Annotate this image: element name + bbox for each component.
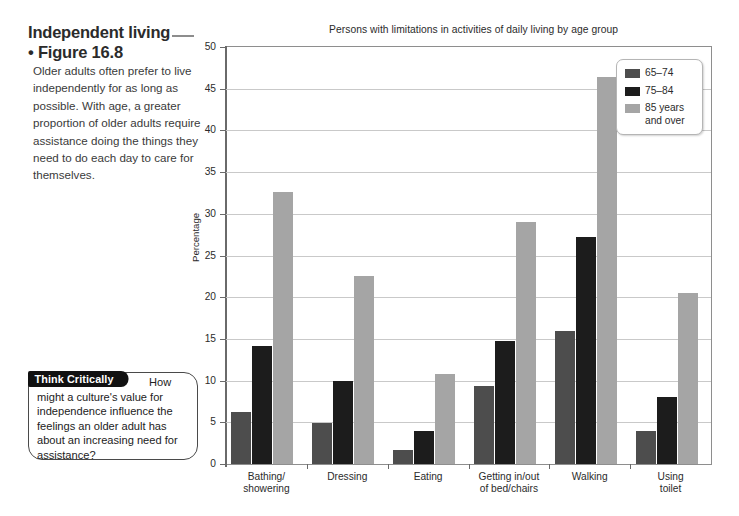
x-axis-category-label: Dressing xyxy=(307,471,388,483)
y-tick-label: 10 xyxy=(194,376,216,386)
plot-area: Percentage 05101520253035404550 Bathing/… xyxy=(225,46,712,465)
x-axis-category-label: Using toilet xyxy=(630,471,711,496)
bar xyxy=(231,412,251,464)
legend-item[interactable]: 75–84 xyxy=(625,85,695,98)
x-axis-tick xyxy=(388,464,389,469)
x-axis-category-label: Walking xyxy=(549,471,630,483)
x-axis-category-label: Bathing/ showering xyxy=(226,471,307,496)
figure-heading-line1: Independent living xyxy=(28,23,170,41)
bar xyxy=(576,237,596,464)
bar xyxy=(273,192,293,464)
bar xyxy=(555,331,575,464)
figure-caption: Older adults often prefer to live indepe… xyxy=(33,62,201,184)
figure-sidebar: Independent living • Figure 16.8 Older a… xyxy=(0,0,208,516)
legend-swatch-icon xyxy=(625,69,640,78)
bar xyxy=(312,423,332,464)
legend-item[interactable]: 65–74 xyxy=(625,67,695,80)
bar xyxy=(333,381,353,464)
x-axis-tick xyxy=(469,464,470,469)
think-critically-question: How might a culture's value for independ… xyxy=(37,375,193,463)
bar xyxy=(252,346,272,464)
y-tick-label: 5 xyxy=(194,417,216,427)
bar xyxy=(495,341,515,464)
y-tick-label: 50 xyxy=(194,42,216,52)
x-axis-category-label: Eating xyxy=(388,471,469,483)
legend-swatch-icon xyxy=(625,87,640,96)
bar xyxy=(657,397,677,464)
bar xyxy=(393,450,413,464)
y-tick-label: 35 xyxy=(194,167,216,177)
x-axis-category-label: Getting in/out of bed/chairs xyxy=(469,471,550,496)
legend-item[interactable]: 85 years and over xyxy=(625,102,695,127)
y-tick-label: 25 xyxy=(194,251,216,261)
heading-divider xyxy=(172,35,194,37)
x-axis-tick xyxy=(307,464,308,469)
legend-swatch-icon xyxy=(625,104,640,113)
legend-label: 75–84 xyxy=(645,85,673,98)
bar xyxy=(516,222,536,464)
y-tick-label: 15 xyxy=(194,334,216,344)
x-axis-tick xyxy=(630,464,631,469)
chart-panel: Persons with limitations in activities o… xyxy=(208,0,739,516)
bar xyxy=(414,431,434,464)
y-tick-label: 45 xyxy=(194,84,216,94)
bar xyxy=(354,276,374,464)
legend-label: 65–74 xyxy=(645,67,673,80)
y-tick-label: 20 xyxy=(194,292,216,302)
bar xyxy=(435,374,455,464)
bar xyxy=(597,77,617,464)
bar xyxy=(636,431,656,464)
figure-heading-line2: • Figure 16.8 xyxy=(28,42,198,62)
x-axis-tick xyxy=(549,464,550,469)
chart-title: Persons with limitations in activities o… xyxy=(208,24,739,35)
bar xyxy=(678,293,698,464)
y-tick-label: 30 xyxy=(194,209,216,219)
think-critically-callout: Think Critically How might a culture's v… xyxy=(28,372,198,460)
y-tick-label: 40 xyxy=(194,125,216,135)
chart-legend: 65–7475–8485 years and over xyxy=(616,59,703,135)
y-tick-mark xyxy=(220,464,226,465)
bar xyxy=(474,386,494,464)
legend-label: 85 years and over xyxy=(645,102,685,127)
y-tick-label: 0 xyxy=(194,459,216,469)
page-title: Independent living • Figure 16.8 xyxy=(28,22,198,62)
